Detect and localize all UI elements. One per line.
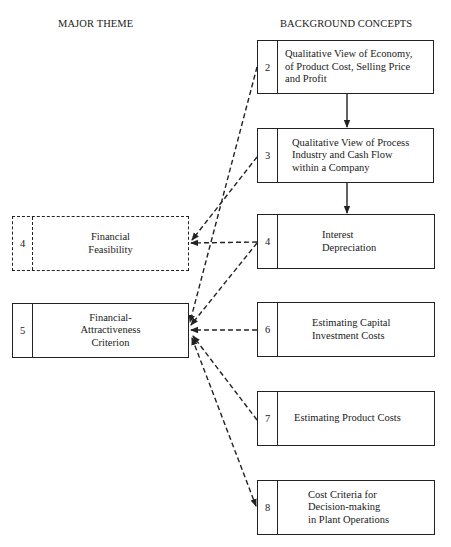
concept-box-2: 2 Qualitative View of Economy,of Product…: [257, 40, 434, 94]
chapter-number: 3: [258, 129, 278, 182]
box-label: Estimating Product Costs: [278, 392, 434, 445]
box-label: FinancialFeasibility: [33, 217, 188, 270]
financial-attractiveness-box: 5 Financial-AttractivenessCriterion: [12, 303, 189, 358]
chapter-number: 2: [258, 41, 278, 93]
box-label: Qualitative View of Economy,of Product C…: [278, 41, 433, 93]
chapter-number: 4: [13, 217, 33, 270]
concept-box-4: 4 InterestDepreciation: [257, 214, 435, 269]
chapter-number: 4: [258, 215, 278, 268]
concept-box-7: 7 Estimating Product Costs: [257, 391, 435, 446]
chapter-number: 5: [13, 304, 33, 357]
box-label: InterestDepreciation: [278, 215, 434, 268]
financial-feasibility-box: 4 FinancialFeasibility: [12, 216, 189, 271]
concept-box-8: 8 Cost Criteria forDecision-makingin Pla…: [257, 480, 435, 535]
box-label: Qualitative View of ProcessIndustry and …: [278, 129, 433, 182]
chapter-number: 6: [258, 303, 278, 356]
chapter-number: 7: [258, 392, 278, 445]
concept-box-3: 3 Qualitative View of ProcessIndustry an…: [257, 128, 434, 183]
box-label: Estimating CapitalInvestment Costs: [278, 303, 434, 356]
chapter-number: 8: [258, 481, 278, 534]
concept-box-6: 6 Estimating CapitalInvestment Costs: [257, 302, 435, 357]
box-label: Cost Criteria forDecision-makingin Plant…: [278, 481, 434, 534]
box-label: Financial-AttractivenessCriterion: [33, 304, 188, 357]
